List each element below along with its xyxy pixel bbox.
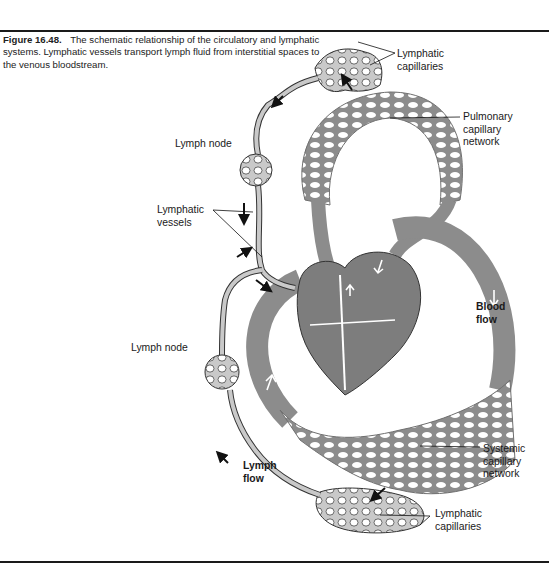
- systemic-capillary-network: [280, 380, 515, 494]
- label-lymph-node-bottom: Lymph node: [131, 342, 188, 355]
- label-pulmonary-capillary-network: Pulmonary capillary network: [463, 111, 513, 149]
- lymphatic-capillaries-bottom-shape: [316, 488, 424, 533]
- bottom-rule: [0, 561, 549, 563]
- lymph-node-bottom-shape: [205, 355, 239, 389]
- label-lymph-node-top: Lymph node: [175, 138, 232, 151]
- label-lymphatic-capillaries-top: Lymphatic capillaries: [397, 48, 444, 73]
- label-lymphatic-capillaries-bottom: Lymphatic capillaries: [435, 508, 482, 533]
- pulmonary-capillary-network: [302, 92, 463, 205]
- heart: [297, 252, 420, 395]
- label-lymph-flow: Lymph flow: [243, 460, 277, 485]
- label-systemic-capillary-network: Systemic capillary network: [483, 443, 525, 481]
- lymph-node-top-shape: [240, 154, 272, 186]
- label-blood-flow: Blood flow: [476, 301, 505, 326]
- label-lymphatic-vessels: Lymphatic vessels: [157, 204, 204, 229]
